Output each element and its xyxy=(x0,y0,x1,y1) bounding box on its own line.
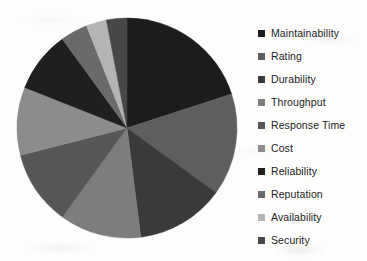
legend-item[interactable]: Availability xyxy=(258,206,366,229)
pie-chart-figure: MaintainabilityRatingDurabilityThroughpu… xyxy=(0,0,367,261)
legend-swatch-icon xyxy=(258,122,265,129)
legend-swatch-icon xyxy=(258,214,265,221)
legend-item[interactable]: Reputation xyxy=(258,183,366,206)
legend-item[interactable]: Rating xyxy=(258,45,366,68)
pie-svg xyxy=(0,0,250,261)
legend-item[interactable]: Throughput xyxy=(258,91,366,114)
legend-item-label: Throughput xyxy=(271,91,326,114)
legend-item[interactable]: Security xyxy=(258,229,366,252)
legend-item-label: Cost xyxy=(271,137,293,160)
legend-swatch-icon xyxy=(258,145,265,152)
legend-swatch-icon xyxy=(258,237,265,244)
legend-swatch-icon xyxy=(258,99,265,106)
legend-item-label: Response Time xyxy=(271,114,345,137)
legend-item-label: Reliability xyxy=(271,160,317,183)
legend-swatch-icon xyxy=(258,30,265,37)
legend-item-label: Security xyxy=(271,229,310,252)
legend-item-label: Reputation xyxy=(271,183,323,206)
chart-legend: MaintainabilityRatingDurabilityThroughpu… xyxy=(258,22,366,252)
legend-item[interactable]: Cost xyxy=(258,137,366,160)
legend-item[interactable]: Durability xyxy=(258,68,366,91)
legend-item-label: Maintainability xyxy=(271,22,339,45)
legend-item[interactable]: Response Time xyxy=(258,114,366,137)
legend-swatch-icon xyxy=(258,76,265,83)
legend-item[interactable]: Maintainability xyxy=(258,22,366,45)
legend-item-label: Rating xyxy=(271,45,302,68)
legend-swatch-icon xyxy=(258,168,265,175)
legend-swatch-icon xyxy=(258,191,265,198)
pie-slice-group xyxy=(17,18,237,238)
legend-item[interactable]: Reliability xyxy=(258,160,366,183)
legend-item-label: Durability xyxy=(271,68,316,91)
legend-swatch-icon xyxy=(258,53,265,60)
legend-item-label: Availability xyxy=(271,206,322,229)
pie-plot-area xyxy=(0,0,250,261)
